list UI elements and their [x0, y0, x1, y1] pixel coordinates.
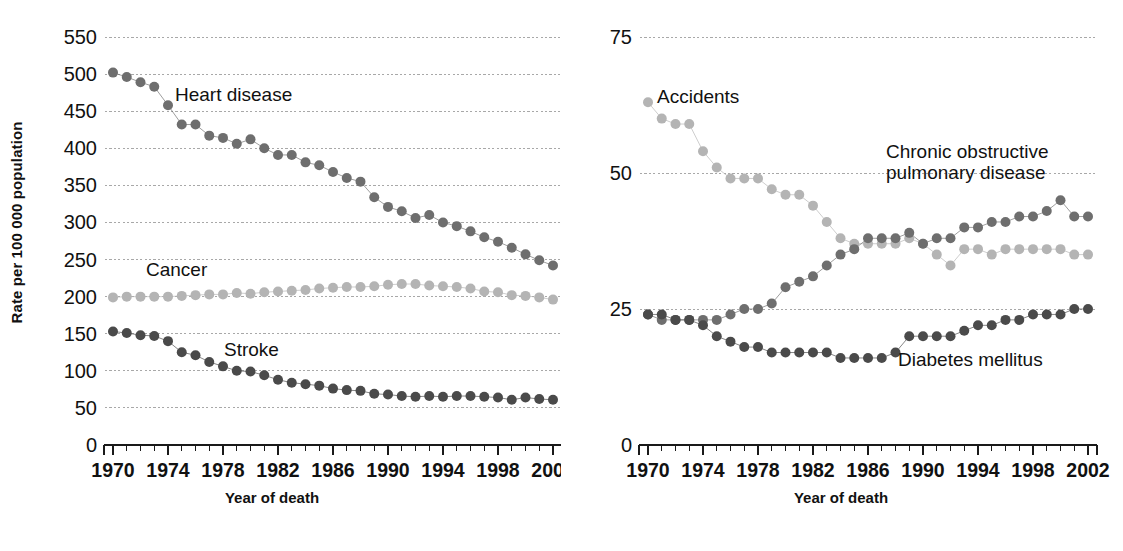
plot-area-right: 0255075197019741978198219861990199419982… — [561, 0, 1123, 480]
y-axis-tick-label: 250 — [64, 249, 97, 271]
data-point — [1014, 244, 1024, 254]
data-point — [753, 173, 763, 183]
data-point — [232, 366, 242, 376]
data-point — [973, 244, 983, 254]
data-point — [643, 309, 653, 319]
data-point — [191, 120, 201, 130]
data-point — [232, 288, 242, 298]
data-point — [493, 287, 503, 297]
x-axis-tick-label: 1982 — [256, 459, 300, 480]
data-point — [136, 292, 146, 302]
data-point — [534, 394, 544, 404]
data-point — [507, 243, 517, 253]
data-point — [314, 160, 324, 170]
data-point — [987, 320, 997, 330]
data-point — [1069, 304, 1079, 314]
data-point — [122, 328, 132, 338]
y-axis-tick-label: 50 — [75, 397, 97, 419]
data-point — [1083, 304, 1093, 314]
data-point — [877, 233, 887, 243]
data-point — [273, 375, 283, 385]
data-point — [808, 271, 818, 281]
data-point — [671, 119, 681, 129]
data-point — [108, 292, 118, 302]
data-point — [712, 163, 722, 173]
data-point — [301, 379, 311, 389]
data-point — [356, 177, 366, 187]
data-point — [918, 331, 928, 341]
data-point — [411, 279, 421, 289]
data-point — [479, 392, 489, 402]
data-point — [781, 190, 791, 200]
x-axis-tick-label: 1978 — [736, 459, 780, 480]
data-point — [122, 72, 132, 82]
data-point — [767, 184, 777, 194]
data-point — [411, 392, 421, 402]
data-point — [466, 391, 476, 401]
data-point — [507, 395, 517, 405]
data-point — [136, 330, 146, 340]
data-point — [218, 289, 228, 299]
data-point — [149, 331, 159, 341]
data-point — [712, 331, 722, 341]
data-point — [479, 286, 489, 296]
data-point — [534, 255, 544, 265]
data-point — [1014, 315, 1024, 325]
y-axis-tick-label: 400 — [64, 137, 97, 159]
data-point — [548, 295, 558, 305]
data-point — [767, 299, 777, 309]
data-point — [753, 342, 763, 352]
data-point — [534, 292, 544, 302]
data-point — [424, 391, 434, 401]
data-point — [122, 292, 132, 302]
x-axis-tick-label: 1990 — [901, 459, 945, 480]
data-point — [479, 232, 489, 242]
data-point — [973, 222, 983, 232]
data-point — [191, 350, 201, 360]
series-annotation-cancer: Cancer — [146, 259, 207, 280]
data-point — [932, 331, 942, 341]
panel-right: 0255075197019741978198219861990199419982… — [561, 0, 1123, 551]
data-point — [1083, 212, 1093, 222]
data-point — [163, 292, 173, 302]
data-point — [904, 228, 914, 238]
data-point — [314, 283, 324, 293]
data-point — [1028, 212, 1038, 222]
x-axis-tick-label: 1978 — [201, 459, 245, 480]
data-point — [521, 393, 531, 403]
data-point — [1001, 315, 1011, 325]
data-point — [204, 289, 214, 299]
data-point — [918, 239, 928, 249]
data-point — [438, 392, 448, 402]
data-point — [452, 221, 462, 231]
y-axis-tick-label: 450 — [64, 100, 97, 122]
data-point — [177, 291, 187, 301]
y-axis-tick-label: 500 — [64, 63, 97, 85]
data-point — [1042, 244, 1052, 254]
series-markers — [108, 327, 558, 405]
data-point — [712, 315, 722, 325]
data-point — [781, 282, 791, 292]
data-point — [411, 213, 421, 223]
data-point — [424, 210, 434, 220]
data-point — [904, 331, 914, 341]
data-point — [794, 277, 804, 287]
x-axis-tick-label: 1986 — [846, 459, 890, 480]
data-point — [259, 370, 269, 380]
data-point — [1056, 309, 1066, 319]
series-annotation-stroke: Stroke — [224, 339, 279, 360]
x-axis-tick-label: 1990 — [366, 459, 410, 480]
data-point — [246, 289, 256, 299]
data-point — [726, 337, 736, 347]
data-point — [849, 353, 859, 363]
data-point — [438, 217, 448, 227]
data-point — [149, 82, 159, 92]
series-annotation-copd: Chronic obstructive pulmonary disease — [886, 141, 1049, 184]
x-axis-title-right: Year of death — [591, 489, 1091, 506]
data-point — [973, 320, 983, 330]
x-axis-tick-label: 2002 — [1066, 459, 1110, 480]
data-point — [794, 190, 804, 200]
y-axis-tick-label: 100 — [64, 360, 97, 382]
series-markers — [643, 195, 1093, 325]
data-point — [328, 384, 338, 394]
